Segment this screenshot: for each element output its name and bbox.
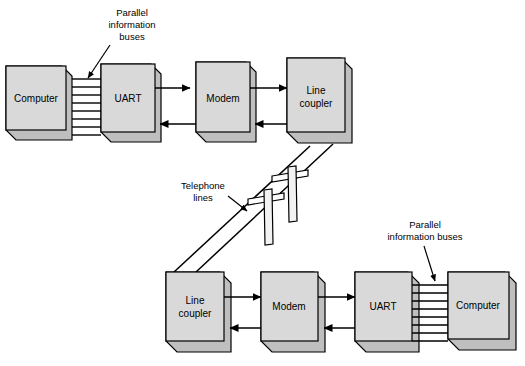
box-label-computer-bottom: Computer xyxy=(456,300,501,311)
parallel-bottom-line-2: information buses xyxy=(388,231,463,242)
box-label-line-coupler-top-2: coupler xyxy=(300,98,333,109)
parallel-top-line-1: Parallel xyxy=(116,7,148,18)
box-uart-bottom: UART xyxy=(355,272,419,352)
telephone-pole-lower xyxy=(248,189,284,245)
box-label-uart-bottom: UART xyxy=(369,301,396,312)
box-computer-bottom: Computer xyxy=(448,272,516,350)
box-label-line-coupler-top-1: Line xyxy=(307,85,326,96)
box-modem-top: Modem xyxy=(196,62,256,142)
box-computer-top: Computer xyxy=(6,66,72,140)
box-line-coupler-bottom: Line coupler xyxy=(166,272,231,352)
box-label-uart-top: UART xyxy=(114,93,141,104)
annotation-telephone-lines: Telephone lines xyxy=(181,180,247,211)
bus-top xyxy=(72,79,101,135)
diagram-canvas: Computer UART Modem xyxy=(0,0,525,366)
telephone-wires xyxy=(174,144,333,272)
telephone-line-2: lines xyxy=(193,192,213,203)
box-label-modem-top: Modem xyxy=(206,93,239,104)
parallel-bottom-line-1: Parallel xyxy=(409,219,441,230)
box-label-line-coupler-bottom-2: coupler xyxy=(179,308,212,319)
box-uart-top: UART xyxy=(101,64,161,142)
box-label-modem-bottom: Modem xyxy=(272,301,305,312)
box-label-computer-top: Computer xyxy=(14,93,59,104)
box-label-line-coupler-bottom-1: Line xyxy=(186,295,205,306)
box-modem-bottom: Modem xyxy=(261,272,325,352)
box-line-coupler-top: Line coupler xyxy=(287,58,352,143)
block-diagram: Computer UART Modem xyxy=(0,0,525,366)
parallel-top-line-2: information xyxy=(109,19,156,30)
parallel-top-line-3: buses xyxy=(119,31,145,42)
telephone-line-1: Telephone xyxy=(181,180,225,191)
